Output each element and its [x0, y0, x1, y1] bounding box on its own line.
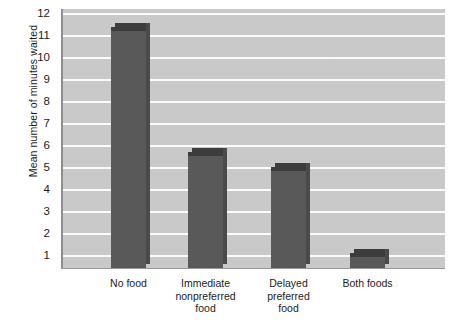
- bar-top-face: [188, 152, 223, 156]
- category-label-line: food: [244, 302, 334, 315]
- y-tick-label: 11: [0, 30, 58, 42]
- bar: [188, 152, 223, 269]
- y-tick-label: 7: [0, 118, 58, 130]
- y-tick-label: 9: [0, 74, 58, 86]
- category-label: Immediatenonpreferredfood: [161, 277, 251, 315]
- bar-top-face: [111, 27, 146, 31]
- category-label-line: Delayed: [244, 277, 334, 290]
- bar-top-face: [350, 253, 385, 257]
- bar-top-face: [271, 167, 306, 171]
- bar-chart-figure: Mean number of minutes waited 1211109876…: [0, 0, 458, 330]
- y-tick-label: 6: [0, 140, 58, 152]
- bar: [271, 167, 306, 268]
- category-label: Both foods: [323, 277, 413, 290]
- bar-side-face: [306, 163, 310, 264]
- category-label-line: Immediate: [161, 277, 251, 290]
- y-tick-label: 8: [0, 96, 58, 108]
- bar-top-extrusion: [354, 249, 389, 253]
- category-label-line: Both foods: [323, 277, 413, 290]
- bar: [350, 253, 385, 268]
- y-axis-tick-labels: 121110987654321: [0, 0, 58, 330]
- bar-top-extrusion: [275, 163, 310, 167]
- y-tick-label: 2: [0, 228, 58, 240]
- y-axis-line: [61, 9, 62, 269]
- gridline: [63, 13, 445, 15]
- y-tick-label: 10: [0, 52, 58, 64]
- y-tick-label: 1: [0, 250, 58, 262]
- y-tick-label: 12: [0, 8, 58, 20]
- category-label: Delayedpreferredfood: [244, 277, 334, 315]
- bar-top-extrusion: [192, 148, 227, 152]
- category-label-line: nonpreferred: [161, 290, 251, 303]
- x-axis-line: [62, 268, 445, 269]
- bar-side-face: [223, 148, 227, 265]
- category-label-line: food: [161, 302, 251, 315]
- y-tick-label: 5: [0, 162, 58, 174]
- y-tick-label: 3: [0, 206, 58, 218]
- bar-top-extrusion: [115, 23, 150, 27]
- category-label-line: preferred: [244, 290, 334, 303]
- bar: [111, 27, 146, 268]
- y-tick-label: 4: [0, 184, 58, 196]
- bar-side-face: [146, 23, 150, 264]
- bar-side-face: [385, 249, 389, 264]
